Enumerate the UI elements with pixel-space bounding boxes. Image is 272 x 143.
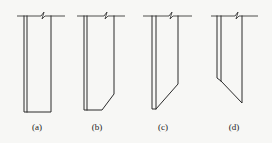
figure-a (17, 12, 65, 112)
wall-outline-b (84, 16, 114, 110)
figure-label-c: (c) (158, 123, 168, 132)
wall-outline-a (24, 16, 51, 112)
figure-label-a: (a) (32, 123, 42, 132)
ground-line-d (211, 12, 258, 19)
ground-line-c (143, 12, 192, 19)
figure-b (77, 12, 125, 110)
figure-label-d: (d) (229, 123, 240, 132)
figure-c (143, 12, 192, 109)
figure-d (211, 12, 258, 103)
figure-label-b: (b) (92, 123, 103, 132)
